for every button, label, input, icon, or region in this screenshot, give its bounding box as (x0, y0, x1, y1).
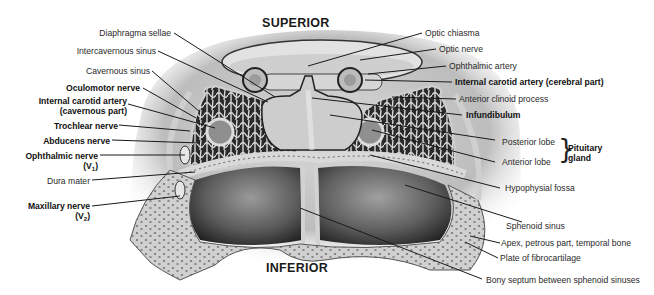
label-ophthalmic-nerve-line2: (V1) (25, 161, 98, 174)
label-internal-carotid-cavernous: Internal carotid artery (cavernous part) (39, 96, 127, 116)
sphenoid-sinus-left (189, 167, 302, 246)
label-ophthalmic-nerve: Ophthalmic nerve (V1) (25, 151, 98, 174)
label-sphenoid-sinus: Sphenoid sinus (506, 221, 565, 231)
label-pituitary-line2: gland (568, 153, 602, 163)
internal-carotid-artery-cavernous-left (207, 119, 233, 145)
label-anterior-clinoid-process: Anterior clinoid process (459, 94, 548, 104)
label-intercavernous-sinus: Intercavernous sinus (77, 46, 156, 56)
label-trochlear-nerve: Trochlear nerve (54, 121, 118, 131)
label-maxillary-nerve: Maxillary nerve (V2) (28, 201, 90, 224)
label-infundibulum: Infundibulum (466, 110, 520, 120)
label-hypophysial-fossa: Hypophysial fossa (505, 183, 575, 193)
label-maxillary-nerve-line2: (V2) (28, 211, 90, 224)
label-internal-carotid-cerebral: Internal carotid artery (cerebral part) (455, 77, 604, 87)
label-plate-of-fibrocartilage: Plate of fibrocartilage (500, 253, 581, 263)
coronal-section-illustration (0, 0, 654, 295)
label-diaphragma-sellae: Diaphragma sellae (99, 28, 171, 38)
label-posterior-lobe: Posterior lobe (502, 137, 555, 147)
label-pituitary-gland: Pituitary gland (568, 143, 602, 163)
label-maxillary-nerve-line1: Maxillary nerve (28, 201, 90, 211)
label-optic-nerve: Optic nerve (439, 44, 483, 54)
label-oculomotor-nerve: Oculomotor nerve (66, 83, 140, 93)
label-optic-chiasma: Optic chiasma (425, 28, 479, 38)
label-anterior-lobe: Anterior lobe (502, 157, 551, 167)
label-apex-petrous-part: Apex, petrous part, temporal bone (501, 238, 631, 248)
label-bony-septum: Bony septum between sphenoid sinuses (486, 275, 640, 285)
label-pituitary-line1: Pituitary (568, 143, 602, 153)
label-cavernous-sinus: Cavernous sinus (86, 66, 150, 76)
orientation-inferior: INFERIOR (266, 261, 328, 275)
label-ophthalmic-artery: Ophthalmic artery (449, 61, 517, 71)
label-internal-carotid-cavernous-line2: (cavernous part) (39, 106, 127, 116)
label-ophthalmic-nerve-line1: Ophthalmic nerve (25, 151, 98, 161)
label-abducens-nerve: Abducens nerve (43, 136, 110, 146)
label-dura-mater: Dura mater (47, 176, 90, 186)
orientation-superior: SUPERIOR (262, 16, 330, 30)
label-internal-carotid-cavernous-line1: Internal carotid artery (39, 96, 127, 106)
